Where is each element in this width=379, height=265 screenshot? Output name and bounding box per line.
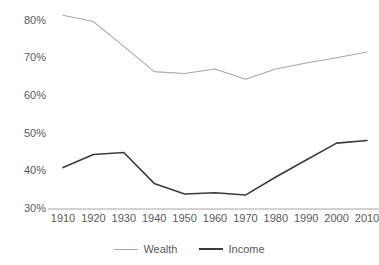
- plot-area: [48, 0, 379, 210]
- x-tick-label: 2010: [355, 212, 379, 225]
- x-tick-label: 1920: [81, 212, 105, 225]
- x-tick-label: 1940: [142, 212, 166, 225]
- y-tick-label: 70%: [24, 52, 46, 63]
- y-tick-label: 40%: [24, 165, 46, 176]
- series-lines: [48, 0, 379, 210]
- series-line-income: [63, 141, 367, 196]
- x-tick-label: 1990: [294, 212, 318, 225]
- series-line-wealth: [63, 15, 367, 79]
- chart-legend: Wealth Income: [0, 238, 379, 260]
- y-tick-label: 30%: [24, 203, 46, 214]
- legend-swatch-income: [199, 248, 223, 250]
- legend-label-income: Income: [228, 243, 264, 255]
- legend-item-wealth: Wealth: [114, 243, 177, 255]
- y-axis: 30%40%50%60%70%80%: [0, 0, 50, 215]
- x-tick-label: 1930: [112, 212, 136, 225]
- y-tick-label: 60%: [24, 90, 46, 101]
- x-tick-label: 1970: [233, 212, 257, 225]
- legend-item-income: Income: [199, 243, 264, 255]
- x-axis: 1910192019301940195019601970198019902000…: [48, 212, 379, 228]
- x-tick-label: 1950: [172, 212, 196, 225]
- line-chart: 30%40%50%60%70%80% 191019201930194019501…: [0, 0, 379, 265]
- y-tick-label: 80%: [24, 15, 46, 26]
- x-tick-label: 1910: [51, 212, 75, 225]
- x-tick-label: 2000: [324, 212, 348, 225]
- legend-swatch-wealth: [114, 249, 138, 250]
- x-tick-label: 1960: [203, 212, 227, 225]
- x-tick-label: 1980: [264, 212, 288, 225]
- y-tick-label: 50%: [24, 128, 46, 139]
- legend-label-wealth: Wealth: [143, 243, 177, 255]
